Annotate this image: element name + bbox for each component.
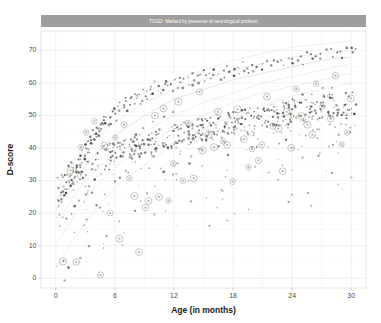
- data-point: [123, 232, 124, 233]
- data-point: [346, 112, 348, 114]
- data-point: [216, 134, 218, 136]
- data-point: [248, 209, 249, 210]
- data-point: [190, 155, 192, 157]
- data-point: [80, 171, 82, 173]
- data-point: [97, 127, 99, 129]
- data-point: [254, 116, 255, 117]
- data-point: [206, 197, 208, 199]
- data-point: [172, 90, 174, 92]
- data-point: [328, 146, 330, 148]
- data-point: [60, 174, 62, 176]
- data-point: [331, 94, 333, 96]
- data-point: [110, 160, 112, 162]
- data-point: [282, 101, 284, 103]
- data-point: [105, 165, 107, 167]
- data-point: [267, 146, 268, 147]
- data-point: [96, 127, 98, 129]
- data-point: [213, 133, 215, 135]
- data-point: [112, 110, 114, 112]
- data-point: [131, 148, 133, 150]
- data-point: [145, 151, 147, 153]
- data-point: [109, 116, 111, 118]
- data-point: [196, 125, 198, 127]
- data-point: [247, 112, 250, 115]
- data-point: [287, 104, 290, 107]
- data-point: [117, 105, 119, 107]
- data-point: [90, 139, 92, 141]
- highlighted-data-point-core: [243, 138, 245, 140]
- data-point: [209, 122, 211, 124]
- data-point: [306, 100, 307, 101]
- highlighted-data-point-core: [109, 212, 111, 214]
- data-point: [95, 204, 97, 206]
- data-point: [117, 147, 118, 148]
- data-point: [202, 127, 204, 129]
- data-point: [319, 152, 321, 154]
- data-point: [272, 116, 274, 118]
- data-point: [150, 151, 152, 153]
- data-point: [277, 121, 278, 122]
- data-point: [176, 126, 178, 128]
- data-point: [165, 210, 166, 211]
- data-point: [290, 115, 292, 117]
- data-point: [205, 140, 207, 142]
- data-point: [80, 158, 82, 160]
- highlighted-data-point-core: [118, 237, 120, 239]
- data-point: [181, 140, 183, 142]
- data-point: [100, 173, 102, 175]
- data-point: [84, 143, 86, 145]
- data-point: [303, 120, 305, 122]
- data-point: [108, 169, 110, 171]
- data-point: [202, 134, 204, 136]
- data-point: [138, 93, 140, 95]
- data-point: [191, 84, 194, 87]
- data-point: [167, 137, 169, 139]
- data-point: [273, 103, 274, 104]
- data-point: [232, 111, 234, 113]
- data-point: [168, 135, 170, 137]
- data-point: [202, 124, 204, 126]
- data-point: [226, 65, 228, 67]
- data-point: [114, 113, 116, 115]
- data-point: [153, 143, 155, 145]
- data-point: [234, 120, 236, 122]
- data-point: [58, 205, 60, 207]
- data-point: [254, 166, 256, 168]
- data-point: [264, 122, 266, 124]
- data-point: [91, 191, 93, 193]
- data-point: [103, 247, 105, 249]
- data-point: [165, 80, 168, 83]
- data-point: [119, 177, 121, 179]
- data-point: [109, 163, 111, 165]
- data-point: [183, 131, 185, 133]
- data-point: [124, 147, 126, 149]
- data-point: [238, 73, 240, 75]
- data-point: [244, 118, 246, 120]
- data-point: [135, 134, 138, 137]
- data-point: [256, 146, 258, 148]
- data-point: [74, 232, 76, 234]
- data-point: [165, 144, 167, 146]
- data-point: [82, 177, 84, 179]
- data-point: [190, 200, 192, 202]
- data-point: [69, 185, 71, 187]
- data-point: [258, 118, 260, 120]
- data-point: [173, 143, 175, 145]
- data-point: [266, 125, 268, 127]
- data-point: [227, 112, 228, 113]
- data-point: [83, 158, 86, 161]
- data-point: [291, 134, 292, 135]
- data-point: [123, 140, 125, 142]
- data-point: [352, 51, 354, 53]
- y-tick-label: 40: [29, 144, 37, 151]
- data-point: [136, 94, 138, 96]
- highlighted-data-point-core: [103, 144, 105, 146]
- data-point: [212, 68, 215, 71]
- data-point: [223, 77, 225, 79]
- data-point: [98, 130, 100, 132]
- data-point: [322, 101, 324, 103]
- data-point: [139, 148, 141, 150]
- data-point: [270, 64, 272, 66]
- data-point: [226, 123, 228, 125]
- data-point: [132, 162, 133, 163]
